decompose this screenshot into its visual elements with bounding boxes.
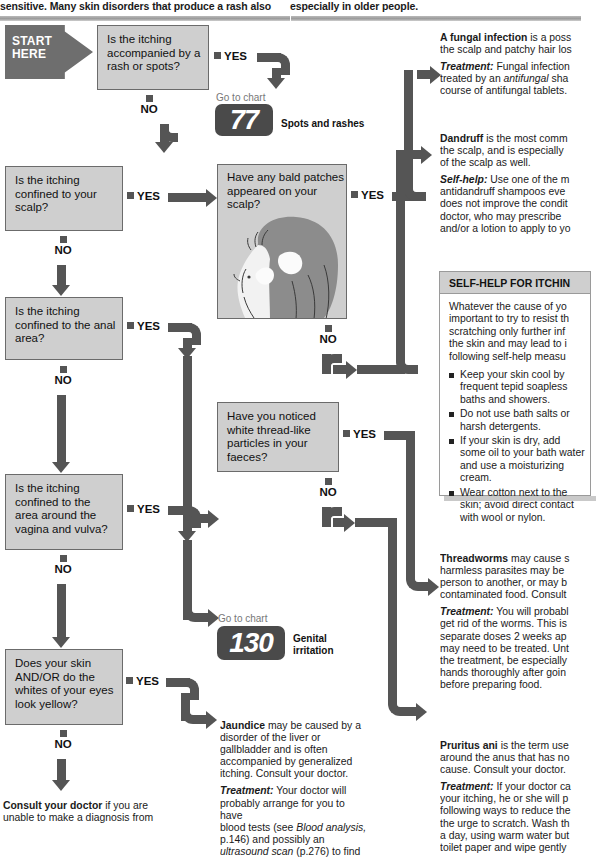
treatment-label: Treatment: <box>220 785 274 796</box>
consult-body: if you are <box>102 800 148 811</box>
self-help-intro-line: scratching only further inf <box>449 326 565 337</box>
advice-line: of the scalp as well. <box>440 157 531 168</box>
bullet-square <box>127 192 134 199</box>
self-help-intro-line: following self-help measu <box>449 351 566 362</box>
answer-no-anal: NO <box>52 366 74 386</box>
advice-body: You will probabl <box>494 606 569 617</box>
bullet-square <box>351 191 358 198</box>
answer-label: NO <box>54 244 71 256</box>
advice-line: doctor, who may prescribe <box>440 211 561 222</box>
advice-threadworms: Threadworms may cause s harmless parasit… <box>440 553 600 696</box>
start-line-1: START <box>12 34 52 48</box>
advice-line: p.146) and possibly an <box>220 834 325 845</box>
self-help-panel-shadow <box>444 496 596 501</box>
consult-lead: Consult your doctor <box>3 800 102 811</box>
bullet-square <box>126 677 133 684</box>
bullet-square <box>60 730 67 737</box>
arrow-to-chart-77 <box>267 78 285 89</box>
goto-chart-label-77: Go to chart <box>216 92 265 103</box>
answer-label: NO <box>54 563 71 575</box>
question-text: Is the itching confined to your scalp? <box>15 174 116 215</box>
advice-pruritus-ani: Pruritus ani is the term use around the … <box>440 740 600 859</box>
self-help-intro-line: important to try to resist th <box>449 313 569 324</box>
answer-label: NO <box>54 374 71 386</box>
arrow-yellow-to-jaundice <box>206 711 217 729</box>
arrow-to-q-bald <box>206 189 217 207</box>
list-item: Wear cotton next to the skin; avoid dire… <box>449 487 585 524</box>
arrow-to-q-vagina <box>52 462 70 473</box>
advice-line: hands thoroughly after goin <box>440 667 566 678</box>
self-help-panel: SELF-HELP FOR ITCHIN Whatever the cause … <box>439 271 591 496</box>
advice-body: may be caused by a <box>265 720 361 731</box>
consult-line2: unable to make a diagnosis from <box>3 812 153 823</box>
start-line-2: HERE <box>12 47 46 61</box>
advice-body: is a poss <box>527 32 571 43</box>
column-rule-right <box>291 16 581 21</box>
scalp-illustration <box>218 215 346 319</box>
arrow-to-threadworms-advice <box>428 578 439 596</box>
bullet-square <box>127 505 134 512</box>
arrow-no-bald-right <box>346 361 357 379</box>
advice-line: following ways to reduce the <box>440 805 571 816</box>
advice-dandruff: Dandruff is the most comm the scalp, and… <box>440 133 600 240</box>
advice-line: accompanied by generalized <box>220 756 352 767</box>
answer-label: YES <box>224 50 247 62</box>
answer-no-scalp: NO <box>52 236 74 256</box>
answer-label: NO <box>319 333 336 345</box>
advice-body: Use one of the m <box>487 174 569 185</box>
consult-doctor-text: Consult your doctor if you are unable to… <box>3 800 213 824</box>
advice-line: antidandruff shampoos eve <box>440 186 565 197</box>
answer-label: YES <box>353 428 376 440</box>
self-help-heading: SELF-HELP FOR ITCHIN <box>440 272 590 294</box>
arrow-no-threadlike-right <box>344 514 355 532</box>
advice-line: may need to be treated. Unt <box>440 643 569 654</box>
question-text: Have you noticed white thread-like parti… <box>227 410 332 464</box>
bullet-square <box>325 478 332 485</box>
arrow-anal-to-130 <box>208 510 219 528</box>
self-help-label: Self-help: <box>440 174 487 185</box>
advice-line: before preparing food. <box>440 679 542 690</box>
bullet-square <box>146 95 153 102</box>
answer-yes-bald: YES <box>351 189 384 201</box>
chart-badge-130[interactable]: 130 <box>217 626 285 660</box>
advice-line: sha <box>549 73 569 84</box>
advice-line: the treatment, be especially <box>440 655 567 666</box>
top-text-right: especially in older people. <box>290 0 418 12</box>
chart-badge-77[interactable]: 77 <box>215 104 273 136</box>
answer-label: YES <box>137 503 160 515</box>
advice-jaundice: Jaundice may be caused by a disorder of … <box>220 720 370 861</box>
chart-title-77: Spots and rashes <box>281 118 364 130</box>
advice-line: harmless parasites may be <box>440 565 564 576</box>
treatment-label: Treatment: <box>440 61 494 72</box>
advice-lead: A fungal infection <box>440 32 527 43</box>
question-box-bald-patches[interactable]: Have any bald patches appeared on your s… <box>217 164 347 319</box>
answer-no-vagina: NO <box>52 555 74 575</box>
answer-yes-vagina: YES <box>127 503 160 515</box>
arrow-to-consult <box>52 780 70 791</box>
advice-line: the urge to scratch. Wash th <box>440 818 570 829</box>
advice-line: a day, using warm water but <box>440 830 569 841</box>
arrow-to-q-scalp <box>155 142 173 153</box>
question-box-vagina[interactable]: Is the itching confined to the area arou… <box>5 474 123 550</box>
bullet-square <box>343 430 350 437</box>
list-item: Keep your skin cool by frequent tepid so… <box>449 369 585 406</box>
question-box-anal[interactable]: Is the itching confined to the anal area… <box>5 297 123 360</box>
answer-yes-scalp: YES <box>127 190 160 202</box>
answer-label: YES <box>361 189 384 201</box>
answer-no-threadlike: NO <box>317 478 339 498</box>
question-box-threadlike[interactable]: Have you noticed white thread-like parti… <box>217 402 339 472</box>
connector-elbow-dandruff-up <box>396 150 418 374</box>
answer-label: NO <box>319 486 336 498</box>
advice-body: is the most comm <box>483 133 567 144</box>
self-help-intro-line: the skin and may lead to i <box>449 338 567 349</box>
advice-line: does not improve the condit <box>440 198 568 209</box>
question-box-rash[interactable]: Is the itching accompanied by a rash or … <box>97 25 209 90</box>
advice-fungal-infection: A fungal infection is a poss the scalp a… <box>440 32 600 102</box>
question-text: Have any bald patches appeared on your s… <box>227 171 346 212</box>
connector-no-anal-down <box>57 395 66 465</box>
question-text: Is the itching confined to the area arou… <box>15 482 116 536</box>
question-box-scalp[interactable]: Is the itching confined to your scalp? <box>5 166 123 231</box>
question-box-yellow[interactable]: Does your skin AND/OR do the whites of y… <box>5 649 123 725</box>
list-item: If your skin is dry, add some oil to you… <box>449 435 585 485</box>
